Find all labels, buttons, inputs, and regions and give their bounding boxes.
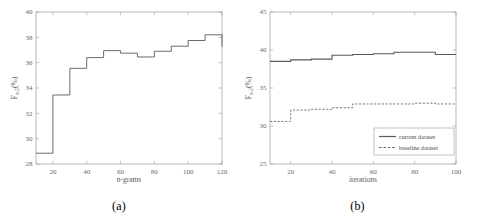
x-tick-label: 40 — [329, 168, 337, 176]
y-tick-label: 30 — [260, 122, 268, 130]
x-tick-label: 120 — [217, 168, 228, 176]
y-axis-label-group: Fn-2(%) — [10, 76, 20, 99]
y-tick-label: 35 — [260, 84, 268, 92]
y-tick-label: 34 — [26, 84, 34, 92]
legend-label-current-dataset: current dataset — [399, 133, 436, 140]
y-axis-label-group: Fn-2(%) — [244, 76, 254, 99]
x-tick-label: 20 — [287, 168, 295, 176]
y-axis-label: Fn-2(%) — [244, 76, 254, 99]
y-tick-label: 25 — [260, 160, 268, 168]
chart-panel-b: 204060801002530354045 iterations Fn-2(%)… — [238, 0, 477, 216]
chart-a-svg: 2040608010012028303234363840 n-grams Fn-… — [0, 0, 238, 200]
y-tick-label: 36 — [26, 59, 34, 67]
y-tick-label: 40 — [260, 46, 268, 54]
plot-frame — [36, 12, 222, 164]
panel-b-caption: (b) — [238, 199, 477, 214]
x-tick-label: 80 — [411, 168, 419, 176]
x-tick-label: 80 — [151, 168, 159, 176]
x-tick-label: 100 — [451, 168, 462, 176]
figure-two-panel-charts: 2040608010012028303234363840 n-grams Fn-… — [0, 0, 477, 216]
x-tick-label: 40 — [83, 168, 91, 176]
chart-panel-a: 2040608010012028303234363840 n-grams Fn-… — [0, 0, 238, 216]
y-tick-label: 45 — [260, 8, 268, 16]
y-axis-label: Fn-2(%) — [10, 76, 20, 99]
x-axis-label: iterations — [349, 175, 377, 184]
legend: current dataset baseline dataset — [374, 128, 454, 155]
y-tick-label: 28 — [26, 160, 34, 168]
x-tick-label: 100 — [183, 168, 194, 176]
y-tick-label: 38 — [26, 34, 34, 42]
panel-a-caption: (a) — [0, 199, 238, 214]
y-tick-label: 40 — [26, 8, 34, 16]
legend-label-baseline-dataset: baseline dataset — [399, 144, 438, 151]
y-tick-label: 32 — [26, 110, 34, 118]
y-tick-label: 30 — [26, 135, 34, 143]
x-axis-label: n-grams — [117, 175, 142, 184]
x-tick-label: 20 — [49, 168, 57, 176]
chart-b-svg: 204060801002530354045 iterations Fn-2(%)… — [238, 0, 477, 200]
